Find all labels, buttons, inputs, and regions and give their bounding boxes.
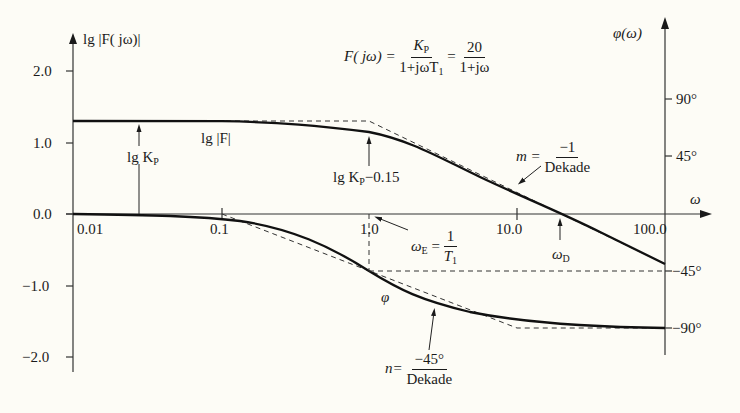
x-tick-label: 0.01 [77,222,103,237]
x-axis-label: ω [690,192,701,207]
x-tick-label: 10.0 [496,222,522,237]
lg-f-label: lg |F| [201,131,231,146]
omega-e-label: ωE = 1T1 [411,229,457,266]
y-tick-label: 0.0 [33,207,52,222]
slope-n-label: n= −45°Dekade [385,352,452,387]
right-y-axis-label: φ(ω) [613,26,642,41]
omega-d-label: ωD [552,247,570,264]
y-tick-label: −1.0 [22,279,49,294]
transfer-function-formula: F( jω) = KP1+jωT1 = 201+jω [344,38,489,77]
x-tick-label: 1.0 [360,222,379,237]
right-phase-axis [661,17,672,355]
slope-m-label: m = −1Dekade [516,140,590,175]
left-y-axis [66,33,77,372]
phase-tick-label: 90° [676,92,697,107]
y-tick-label: 2.0 [33,64,52,79]
lg-kp-label: lg KP [127,150,159,167]
phase-tick-label: −90° [672,321,701,336]
x-tick-label: 100.0 [633,222,667,237]
phase-tick-label: −45° [672,264,701,279]
left-y-axis-label: lg |F( jω)| [83,32,141,47]
x-tick-label: 0.1 [210,222,229,237]
x-axis [66,208,712,220]
y-tick-label: 1.0 [33,136,52,151]
phase-tick-label: 45° [676,149,697,164]
y-tick-label: −2.0 [22,350,49,365]
phi-label: φ [381,290,389,305]
lg-kp-minus-015-label: lg KP−0.15 [333,170,400,187]
